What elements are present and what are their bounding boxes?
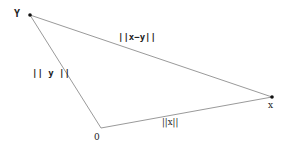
- vertex-x-dot: [270, 95, 274, 99]
- edge-label-norm-x: ||x||: [162, 117, 178, 128]
- edge-y-to-x: [30, 15, 272, 97]
- vertex-y-dot: [28, 13, 32, 17]
- vertex-label-x: x: [268, 100, 273, 110]
- edge-origin-to-x: [101, 97, 272, 128]
- norm-triangle-diagram: Y 0 x ||x−y|| || y || ||x||: [0, 0, 289, 147]
- edge-label-norm-y: || y ||: [32, 68, 70, 78]
- vertex-label-y: Y: [14, 8, 20, 19]
- vertex-label-origin: 0: [94, 132, 100, 142]
- edge-label-x-minus-y: ||x−y||: [118, 32, 156, 42]
